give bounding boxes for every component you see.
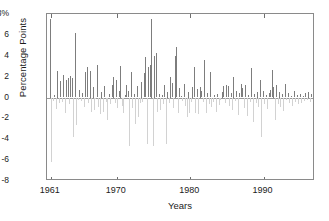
bar xyxy=(217,94,218,97)
bar xyxy=(169,98,170,103)
bar xyxy=(94,98,95,111)
bar xyxy=(226,85,227,98)
bar xyxy=(236,91,237,97)
bar xyxy=(84,98,85,107)
x-tick-top xyxy=(117,14,118,18)
bar xyxy=(238,98,239,116)
bar xyxy=(289,98,290,103)
y-tick-right xyxy=(313,56,314,57)
y-tick-label: 8% xyxy=(0,9,9,18)
x-tick-label: 1990 xyxy=(243,185,283,195)
y-tick xyxy=(46,77,47,78)
y-tick-label: 6 xyxy=(0,30,9,39)
y-tick-label: -8 xyxy=(0,176,9,185)
x-tick xyxy=(264,177,265,180)
bar xyxy=(131,72,132,97)
bar xyxy=(138,98,139,118)
bar xyxy=(298,98,299,104)
bar xyxy=(103,98,104,113)
bar xyxy=(311,94,312,97)
bar xyxy=(100,98,101,115)
plot-area xyxy=(46,13,314,180)
bar xyxy=(97,65,98,97)
y-tick-right xyxy=(313,35,314,36)
y-tick-right xyxy=(313,139,314,140)
bar xyxy=(141,82,142,98)
x-tick-top xyxy=(51,14,52,18)
y-tick xyxy=(46,35,47,36)
y-tick-right xyxy=(313,118,314,119)
y-tick-right xyxy=(313,98,314,99)
bar xyxy=(310,98,311,102)
bar xyxy=(304,98,305,101)
bar xyxy=(264,98,265,104)
bar xyxy=(82,93,83,97)
bar xyxy=(140,98,141,103)
bar xyxy=(54,95,55,97)
bar xyxy=(225,98,226,103)
bar xyxy=(305,93,306,97)
bar xyxy=(245,85,246,98)
bar xyxy=(270,90,271,97)
bar xyxy=(87,67,88,97)
bar xyxy=(59,98,60,103)
bar xyxy=(117,98,118,108)
bar xyxy=(170,77,171,98)
bar xyxy=(116,80,117,98)
bar xyxy=(214,95,215,97)
bar xyxy=(135,98,136,124)
bar xyxy=(251,68,252,97)
bar xyxy=(63,75,64,98)
bar xyxy=(210,72,211,97)
bar xyxy=(95,98,96,99)
bar xyxy=(216,98,217,113)
bar xyxy=(73,98,74,138)
bar xyxy=(191,98,192,102)
bar xyxy=(228,86,229,97)
bar xyxy=(115,98,116,103)
bar xyxy=(65,98,66,114)
bar xyxy=(107,98,108,121)
zero-line xyxy=(47,98,313,99)
bar xyxy=(172,83,173,98)
bar xyxy=(308,92,309,97)
bar xyxy=(184,84,185,98)
x-tick xyxy=(117,177,118,180)
bar xyxy=(160,98,161,111)
bar xyxy=(81,98,82,101)
y-tick-label: 0 xyxy=(0,93,9,102)
bar xyxy=(72,78,73,98)
bar xyxy=(101,92,102,97)
bar xyxy=(295,98,296,102)
bar xyxy=(229,98,230,106)
y-tick-right xyxy=(313,160,314,161)
bar xyxy=(247,98,248,117)
bar xyxy=(233,77,234,98)
bar xyxy=(129,98,130,146)
bar xyxy=(254,94,255,97)
bar xyxy=(91,98,92,113)
bar xyxy=(60,81,61,98)
bar xyxy=(220,98,221,100)
y-tick-right xyxy=(313,77,314,78)
bar xyxy=(66,80,67,98)
bar xyxy=(192,87,193,97)
bar xyxy=(126,85,127,98)
bar xyxy=(176,47,177,97)
x-tick-label: 1961 xyxy=(30,185,70,195)
bar xyxy=(57,71,58,97)
x-tick-top xyxy=(264,14,265,18)
bar xyxy=(110,98,111,104)
bar xyxy=(206,98,207,114)
bar xyxy=(260,80,261,98)
bar xyxy=(166,98,167,145)
bar xyxy=(232,98,233,111)
y-tick xyxy=(46,139,47,140)
x-tick xyxy=(51,177,52,180)
y-tick xyxy=(46,98,47,99)
x-tick-label: 1970 xyxy=(96,185,136,195)
bar xyxy=(182,98,183,101)
bar xyxy=(157,98,158,113)
bar xyxy=(197,89,198,97)
bar xyxy=(90,71,91,97)
